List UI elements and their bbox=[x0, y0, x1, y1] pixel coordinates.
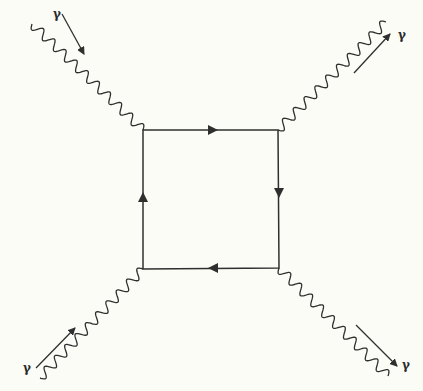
fermion-arrow-bottom-icon bbox=[208, 263, 218, 273]
photon-line-bottom-left bbox=[40, 268, 143, 379]
fermion-loop-box bbox=[143, 130, 279, 269]
momentum-arrows bbox=[36, 14, 397, 368]
photon-label-top-right: γ bbox=[398, 29, 406, 41]
momentum-arrow-top-left-icon bbox=[62, 14, 84, 54]
momentum-arrow-bottom-right-icon bbox=[356, 325, 397, 366]
photon-line-bottom-right bbox=[278, 268, 389, 376]
fermion-arrow-right-icon bbox=[274, 188, 284, 198]
photon-label-bottom-left: γ bbox=[23, 362, 31, 374]
fermion-loop bbox=[138, 125, 284, 273]
photon-lines bbox=[31, 21, 389, 379]
photon-line-top-right bbox=[278, 21, 386, 131]
fermion-arrow-top-icon bbox=[208, 125, 218, 135]
feynman-diagram: γ γ γ γ bbox=[0, 0, 423, 391]
photon-label-top-left: γ bbox=[53, 8, 61, 20]
photon-label-bottom-right: γ bbox=[402, 359, 410, 371]
photon-line-top-left bbox=[31, 24, 144, 130]
fermion-arrow-left-icon bbox=[138, 192, 148, 202]
diagram-canvas bbox=[0, 0, 423, 391]
